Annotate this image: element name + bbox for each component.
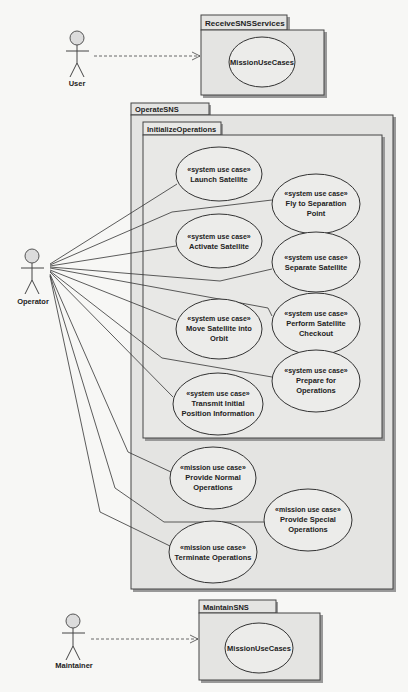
- actor-operator[interactable]: Operator: [17, 249, 49, 306]
- use-case-name: Transmit Initial: [192, 399, 245, 408]
- use-case-terminate-operations[interactable]: «mission use case» Terminate Operations: [169, 521, 257, 583]
- use-case-name: Terminate Operations: [175, 553, 252, 562]
- use-case-name-line2: Checkout: [299, 329, 334, 338]
- actor-label: User: [69, 79, 86, 88]
- use-case-name: Perform Satellite: [286, 319, 346, 328]
- stereotype: «mission use case»: [275, 506, 341, 513]
- use-case-separate-satellite[interactable]: «system use case» Separate Satellite: [272, 232, 360, 292]
- stereotype: «system use case»: [186, 390, 250, 398]
- actor-label: Maintainer: [55, 661, 93, 670]
- use-case-name: Move Satellite into: [186, 324, 252, 333]
- use-case-launch-satellite[interactable]: «system use case» Launch Satellite: [176, 147, 262, 201]
- use-case-name-line2: Point: [307, 209, 326, 218]
- use-case-fly-to-separation-point[interactable]: «system use case» Fly to Separation Poin…: [272, 174, 360, 234]
- use-case-name-line2: Operations: [288, 525, 328, 534]
- use-case-name: Separate Satellite: [285, 263, 348, 272]
- use-case-name: Prepare for: [296, 376, 336, 385]
- package-name: InitializeOperations: [147, 125, 216, 134]
- actor-maintainer[interactable]: Maintainer: [55, 614, 93, 670]
- dependency-maintainer-maintain: [91, 635, 198, 643]
- use-case-name-line2: Orbit: [210, 334, 228, 343]
- package-maintain-sns[interactable]: MaintainSNS MissionUseCases: [199, 600, 323, 683]
- package-receive-sns-services[interactable]: ReceiveSNSServices MissionUseCases: [201, 15, 327, 98]
- use-case-name-line2: Operations: [193, 483, 233, 492]
- stereotype: «system use case»: [284, 367, 348, 375]
- stereotype: «mission use case»: [180, 544, 246, 551]
- use-case-name: Fly to Separation: [286, 199, 347, 208]
- use-case-move-satellite-into-orbit[interactable]: «system use case» Move Satellite into Or…: [176, 299, 262, 359]
- actor-label: Operator: [17, 297, 49, 306]
- use-case-prepare-for-operations[interactable]: «system use case» Prepare for Operations: [272, 350, 360, 412]
- use-case-name: Provide Special: [280, 515, 336, 524]
- use-case-transmit-initial-position-information[interactable]: «system use case» Transmit Initial Posit…: [173, 373, 263, 435]
- use-case-label: MissionUseCases: [227, 644, 291, 653]
- use-case-name-line2: Position Information: [182, 409, 255, 418]
- use-case-name: Launch Satellite: [190, 175, 248, 184]
- stereotype: «system use case»: [284, 190, 348, 198]
- use-case-provide-normal-operations[interactable]: «mission use case» Provide Normal Operat…: [170, 447, 256, 509]
- stereotype: «system use case»: [284, 254, 348, 262]
- package-name: ReceiveSNSServices: [205, 19, 285, 28]
- use-case-name-line2: Operations: [296, 386, 336, 395]
- stereotype: «system use case»: [284, 310, 348, 318]
- use-case-perform-satellite-checkout[interactable]: «system use case» Perform Satellite Chec…: [272, 293, 360, 355]
- use-case-name: Activate Satellite: [189, 242, 249, 251]
- stereotype: «mission use case»: [180, 464, 246, 471]
- stereotype: «system use case»: [187, 233, 251, 241]
- package-name: MaintainSNS: [203, 603, 249, 612]
- stereotype: «system use case»: [187, 166, 251, 174]
- use-case-provide-special-operations[interactable]: «mission use case» Provide Special Opera…: [264, 489, 352, 551]
- use-case-label: MissionUseCases: [230, 58, 294, 67]
- use-case-activate-satellite[interactable]: «system use case» Activate Satellite: [176, 214, 262, 268]
- use-case-name: Provide Normal: [185, 473, 240, 482]
- package-name: OperateSNS: [135, 105, 179, 114]
- use-case-mission-use-cases[interactable]: MissionUseCases: [229, 37, 295, 87]
- actor-user[interactable]: User: [66, 31, 89, 88]
- use-case-diagram: ReceiveSNSServices MissionUseCases User …: [0, 0, 408, 692]
- stereotype: «system use case»: [187, 315, 251, 323]
- use-case-mission-use-cases[interactable]: MissionUseCases: [225, 623, 293, 673]
- dependency-user-receive: [94, 52, 200, 60]
